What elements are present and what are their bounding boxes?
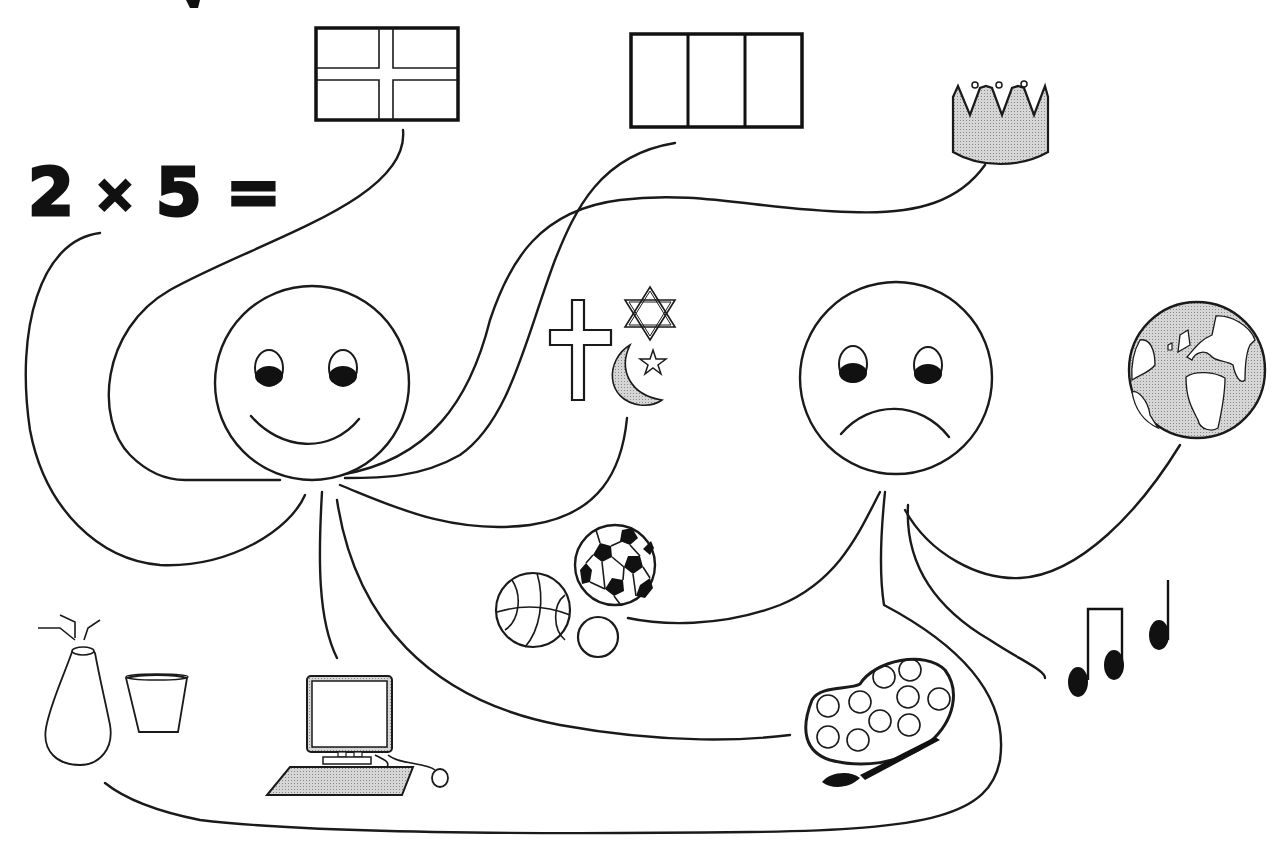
happy-face xyxy=(215,286,409,480)
flag-tricolor-icon xyxy=(631,34,802,127)
music-notes-icon xyxy=(1068,580,1169,697)
computer-icon xyxy=(267,676,448,795)
diagram-svg xyxy=(0,0,1283,851)
connector-lines xyxy=(26,130,1180,833)
cropped-glyph-top xyxy=(186,0,200,8)
small-ball-icon xyxy=(578,617,618,657)
crown-icon xyxy=(953,81,1048,164)
globe-icon xyxy=(1129,302,1265,438)
soccer-ball-icon xyxy=(575,525,655,605)
religion-symbols-icon xyxy=(550,287,675,405)
sad-face xyxy=(800,282,992,474)
sports-balls-icon xyxy=(496,525,655,657)
vase-and-cup-icon xyxy=(38,615,188,765)
flag-cross-icon xyxy=(316,28,458,120)
basketball-icon xyxy=(496,573,570,647)
paint-palette-icon xyxy=(806,659,954,787)
diagram-canvas: 2×5= xyxy=(0,0,1283,851)
